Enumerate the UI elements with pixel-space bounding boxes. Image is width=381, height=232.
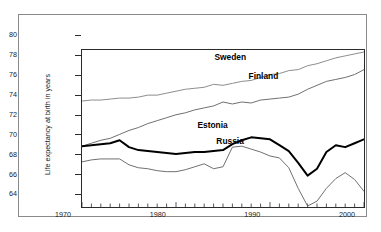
y-tick-label: 72 bbox=[0, 111, 17, 118]
series-label-estonia: Estonia bbox=[197, 121, 227, 129]
chart-outer-frame: Life expectancy at birth in years 646668… bbox=[18, 14, 367, 217]
y-tick-mark bbox=[75, 35, 81, 36]
series-line-russia bbox=[82, 146, 364, 206]
x-tick-label: 1980 bbox=[138, 211, 178, 218]
y-tick-label: 70 bbox=[0, 131, 17, 138]
x-tick-label: 1970 bbox=[43, 211, 83, 218]
y-tick-label: 76 bbox=[0, 71, 17, 78]
y-tick-label: 74 bbox=[0, 91, 17, 98]
series-label-finland: Finland bbox=[249, 72, 279, 80]
y-axis-title: Life expectancy at birth in years bbox=[43, 50, 52, 200]
chart-figure: Life expectancy at birth in years 646668… bbox=[0, 0, 381, 232]
x-tick-label: 1990 bbox=[232, 211, 272, 218]
y-tick-label: 78 bbox=[0, 51, 17, 58]
series-label-sweden: Sweden bbox=[214, 53, 246, 61]
y-tick-label: 80 bbox=[0, 31, 17, 38]
series-line-finland bbox=[82, 70, 364, 147]
x-tick-label: 2000 bbox=[327, 211, 367, 218]
series-label-russia: Russia bbox=[216, 137, 243, 145]
y-tick-label: 68 bbox=[0, 151, 17, 158]
y-tick-label: 66 bbox=[0, 171, 17, 178]
y-tick-label: 64 bbox=[0, 190, 17, 197]
